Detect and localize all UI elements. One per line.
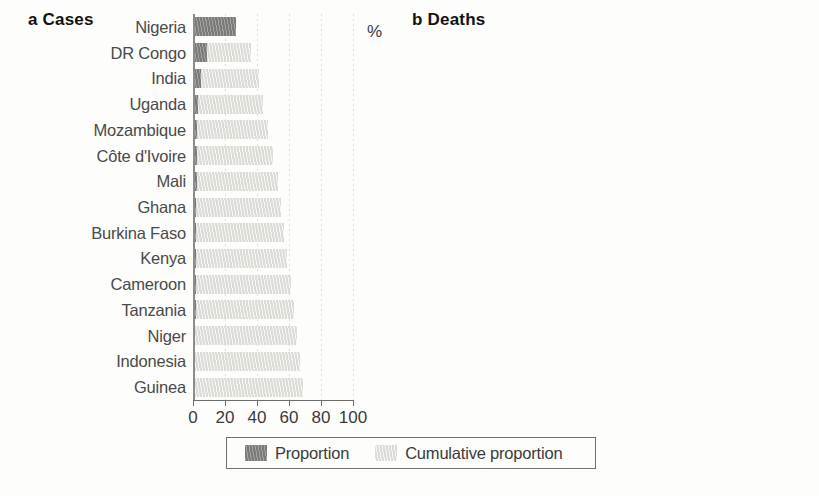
category-label: Côte d'Ivoire: [96, 146, 186, 165]
zero-baseline: [193, 14, 195, 400]
category-label: Mozambique: [94, 120, 186, 139]
plot-area-cases: NigeriaDR CongoIndiaUgandaMozambiqueCôte…: [193, 14, 353, 400]
bar-group: [193, 352, 300, 371]
x-axis-tick-label: 40: [248, 408, 267, 428]
bar-cumulative-proportion: [193, 172, 278, 191]
bar-group: [193, 275, 291, 294]
category-label: Indonesia: [116, 352, 186, 371]
bar-cumulative-proportion: [193, 352, 300, 371]
x-axis-line: [193, 400, 353, 401]
category-label: Kenya: [140, 249, 186, 268]
x-axis-tick: [225, 400, 226, 406]
category-label: Niger: [148, 326, 186, 345]
x-axis-cases: 020406080100: [193, 400, 353, 401]
bar-group: [193, 17, 236, 36]
bar-cumulative-proportion: [193, 120, 268, 139]
bar-group: [193, 95, 263, 114]
bar-row: Guinea: [193, 378, 353, 397]
panel-a-label: a Cases: [28, 10, 94, 30]
gridline: [353, 14, 354, 400]
bar-cumulative-proportion: [193, 300, 294, 319]
category-label: Cameroon: [111, 275, 186, 294]
bar-cumulative-proportion: [193, 146, 273, 165]
bar-group: [193, 378, 303, 397]
bar-row: Uganda: [193, 95, 353, 114]
bar-row: Burkina Faso: [193, 223, 353, 242]
bar-group: [193, 146, 273, 165]
bar-cumulative-proportion: [193, 69, 259, 88]
x-axis-tick: [321, 400, 322, 406]
panel-b-label: b Deaths: [412, 10, 485, 30]
legend-item-proportion: Proportion: [245, 444, 349, 463]
figure-root: a Cases NigeriaDR CongoIndiaUgandaMozamb…: [0, 0, 819, 496]
category-label: Tanzania: [122, 300, 186, 319]
chart-legend: Proportion Cumulative proportion: [226, 437, 596, 469]
x-axis-tick: [257, 400, 258, 406]
bar-row: DR Congo: [193, 43, 353, 62]
bar-group: [193, 172, 278, 191]
bar-row: Mali: [193, 172, 353, 191]
bar-group: [193, 223, 284, 242]
bar-row: Côte d'Ivoire: [193, 146, 353, 165]
bar-cumulative-proportion: [193, 198, 281, 217]
x-axis-tick: [193, 400, 194, 406]
bar-cumulative-proportion: [193, 223, 284, 242]
bar-row: Indonesia: [193, 352, 353, 371]
bar-cumulative-proportion: [193, 378, 303, 397]
x-axis-unit-cases: %: [367, 22, 382, 42]
legend-swatch-cumulative-icon: [375, 445, 397, 461]
bar-row: India: [193, 69, 353, 88]
legend-swatch-proportion-icon: [245, 445, 267, 461]
bar-cumulative-proportion: [193, 326, 297, 345]
legend-label-proportion: Proportion: [275, 444, 349, 463]
category-label: Nigeria: [135, 17, 186, 36]
bar-cumulative-proportion: [193, 275, 291, 294]
bar-row: Niger: [193, 326, 353, 345]
x-axis-tick-label: 20: [216, 408, 235, 428]
legend-item-cumulative: Cumulative proportion: [375, 444, 562, 463]
bar-row: Mozambique: [193, 120, 353, 139]
bar-proportion: [193, 43, 207, 62]
bar-rows-cases: NigeriaDR CongoIndiaUgandaMozambiqueCôte…: [193, 14, 353, 400]
bar-row: Ghana: [193, 198, 353, 217]
category-label: Burkina Faso: [91, 223, 186, 242]
category-label: Mali: [157, 172, 186, 191]
bar-group: [193, 69, 259, 88]
category-label: Ghana: [137, 198, 186, 217]
category-label: DR Congo: [111, 43, 186, 62]
bar-group: [193, 43, 251, 62]
bar-group: [193, 120, 268, 139]
category-label: India: [151, 69, 186, 88]
bar-group: [193, 198, 281, 217]
bar-group: [193, 326, 297, 345]
panels-container: a Cases NigeriaDR CongoIndiaUgandaMozamb…: [0, 0, 819, 432]
bar-row: Nigeria: [193, 17, 353, 36]
bar-cumulative-proportion: [193, 95, 263, 114]
bar-row: Kenya: [193, 249, 353, 268]
category-label: Guinea: [134, 378, 186, 397]
panel-cases: a Cases NigeriaDR CongoIndiaUgandaMozamb…: [0, 0, 400, 432]
bar-row: Cameroon: [193, 275, 353, 294]
bar-group: [193, 300, 294, 319]
x-axis-tick: [289, 400, 290, 406]
bar-group: [193, 249, 287, 268]
x-axis-tick-label: 0: [188, 408, 197, 428]
legend-label-cumulative: Cumulative proportion: [405, 444, 562, 463]
x-axis-tick-label: 100: [339, 408, 367, 428]
bar-row: Tanzania: [193, 300, 353, 319]
bar-cumulative-proportion: [193, 249, 287, 268]
bar-proportion: [193, 17, 236, 36]
x-axis-tick-label: 60: [280, 408, 299, 428]
x-axis-tick-label: 80: [312, 408, 331, 428]
category-label: Uganda: [129, 95, 186, 114]
x-axis-tick: [353, 400, 354, 406]
panel-deaths: b Deaths NigeriaDR CongoIndiaMaliTanzani…: [400, 0, 819, 432]
